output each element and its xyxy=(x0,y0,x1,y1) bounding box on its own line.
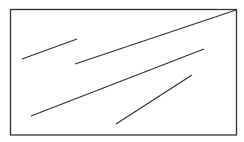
line-segments-diagram xyxy=(0,0,244,142)
line-segment-4 xyxy=(116,75,192,124)
line-segment-1 xyxy=(22,39,77,59)
line-segment-3 xyxy=(31,49,204,116)
line-segment-2 xyxy=(75,10,236,64)
bounding-rectangle xyxy=(11,10,237,136)
segments-group xyxy=(22,10,236,124)
